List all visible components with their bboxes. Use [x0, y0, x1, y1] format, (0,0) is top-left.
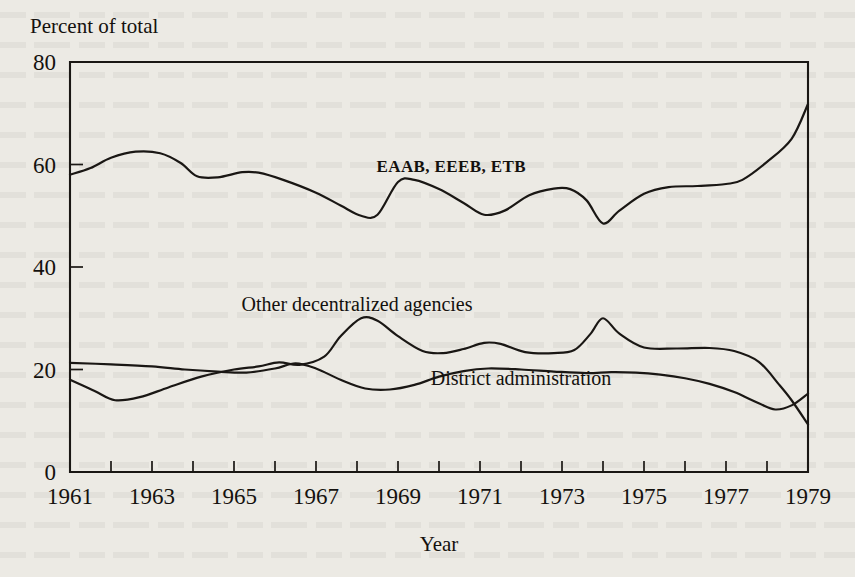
x-tick-label: 1971 — [457, 484, 503, 509]
x-tick-label: 1967 — [293, 484, 339, 509]
x-tick-label: 1969 — [375, 484, 421, 509]
y-tick-label: 20 — [33, 358, 56, 383]
y-tick-labels: 020406080 — [33, 50, 56, 485]
y-tick-label: 0 — [45, 460, 57, 485]
y-tick-label: 60 — [33, 153, 56, 178]
line-chart-canvas: 020406080 196119631965196719691971197319… — [0, 0, 855, 577]
x-axis-title: Year — [420, 532, 459, 556]
figure-container: Percent of total 020406080 1961196319651… — [0, 0, 855, 577]
series-label: EAAB, EEEB, ETB — [376, 157, 526, 176]
series-label: Other decentralized agencies — [242, 293, 473, 316]
series-label: District administration — [431, 367, 612, 389]
y-axis-ticks — [70, 165, 83, 370]
x-tick-label: 1979 — [785, 484, 831, 509]
plot-frame — [70, 62, 808, 472]
x-tick-label: 1975 — [621, 484, 667, 509]
x-axis-ticks — [111, 461, 767, 472]
x-tick-label: 1977 — [703, 484, 749, 509]
x-tick-label: 1961 — [47, 484, 93, 509]
y-tick-label: 40 — [33, 255, 56, 280]
x-tick-label: 1965 — [211, 484, 257, 509]
y-tick-label: 80 — [33, 50, 56, 75]
x-tick-label: 1973 — [539, 484, 585, 509]
x-tick-labels: 1961196319651967196919711973197519771979 — [47, 484, 831, 509]
x-tick-label: 1963 — [129, 484, 175, 509]
